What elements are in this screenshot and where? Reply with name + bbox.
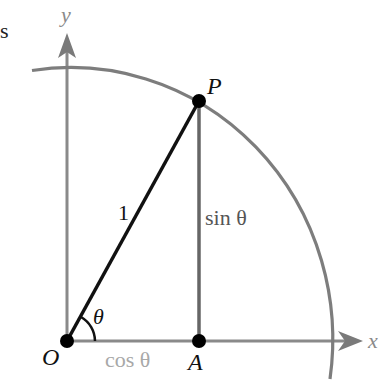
point-p-label: P bbox=[206, 73, 222, 99]
hypotenuse-label: 1 bbox=[118, 200, 129, 225]
point-p bbox=[192, 94, 206, 108]
origin-label: O bbox=[42, 344, 59, 370]
sine-label: sin θ bbox=[205, 205, 247, 230]
unit-circle-diagram: s y x O P A 1 sin θ cos θ θ bbox=[0, 0, 392, 388]
y-axis-label: y bbox=[59, 2, 71, 27]
cosine-label: cos θ bbox=[105, 347, 150, 372]
x-axis-label: x bbox=[367, 328, 378, 353]
point-a-label: A bbox=[186, 349, 203, 375]
origin-point bbox=[60, 334, 74, 348]
angle-label: θ bbox=[93, 304, 104, 329]
corner-fragment-label: s bbox=[0, 18, 9, 43]
point-a bbox=[192, 334, 206, 348]
hypotenuse-segment bbox=[67, 101, 199, 341]
unit-circle-arc bbox=[32, 68, 333, 379]
